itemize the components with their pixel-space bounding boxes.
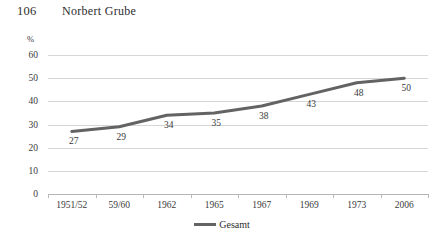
data-point-label: 50 (402, 83, 412, 93)
data-point-label: 43 (307, 99, 317, 109)
data-point-label: 48 (354, 88, 364, 98)
legend-line-swatch (194, 223, 216, 226)
series-layer (0, 28, 444, 233)
data-point-label: 27 (69, 136, 79, 146)
running-head: 106 Norbert Grube (0, 4, 444, 22)
chart-legend: Gesamt (0, 216, 444, 232)
data-point-label: 29 (117, 132, 127, 142)
line-chart-figure: % 6050403020100 1951/5259/60196219651967… (0, 28, 444, 233)
running-title: Norbert Grube (62, 4, 136, 19)
data-point-label: 35 (212, 118, 222, 128)
legend-label-gesamt: Gesamt (219, 219, 250, 230)
data-point-label: 34 (164, 120, 174, 130)
data-point-label: 38 (259, 111, 269, 121)
page-number: 106 (17, 4, 36, 19)
series-line-gesamt (72, 78, 405, 131)
